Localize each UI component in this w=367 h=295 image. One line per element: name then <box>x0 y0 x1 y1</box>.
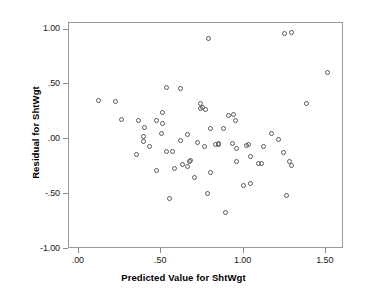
data-point <box>119 117 124 122</box>
data-point <box>289 30 294 35</box>
data-point <box>234 159 239 164</box>
x-tick-label: .00 <box>53 256 103 265</box>
x-axis-title: Predicted Value for ShtWgt <box>0 272 367 283</box>
data-point <box>241 183 246 188</box>
data-point <box>113 99 118 104</box>
data-point <box>276 137 281 142</box>
data-point <box>172 166 177 171</box>
data-point <box>192 175 197 180</box>
data-point <box>246 142 251 147</box>
data-point <box>178 86 183 91</box>
data-point <box>281 150 286 155</box>
data-point <box>147 144 152 149</box>
data-point <box>170 149 175 154</box>
data-point <box>231 112 236 117</box>
x-tick-mark <box>243 248 244 253</box>
data-point <box>160 110 165 115</box>
data-point <box>221 126 226 131</box>
data-point <box>223 210 228 215</box>
data-point <box>167 196 172 201</box>
scatter-plot-figure: 1.00.50.00-.50-1.00 .00.501.001.50 Resid… <box>0 0 367 295</box>
data-point <box>282 31 287 36</box>
data-point <box>259 161 264 166</box>
data-point <box>234 146 239 151</box>
data-point <box>233 118 238 123</box>
data-point <box>141 134 146 139</box>
data-point <box>178 138 183 143</box>
data-point <box>154 118 159 123</box>
x-tick-mark <box>78 248 79 253</box>
data-point <box>269 131 274 136</box>
plot-area <box>68 22 343 248</box>
data-point <box>206 36 211 41</box>
x-tick-label: 1.50 <box>300 256 350 265</box>
data-points-layer <box>69 23 342 247</box>
data-point <box>325 70 330 75</box>
data-point <box>195 140 200 145</box>
y-tick-mark <box>63 248 68 249</box>
x-tick-mark <box>325 248 326 253</box>
data-point <box>208 126 213 131</box>
data-point <box>202 144 207 149</box>
data-point <box>248 181 253 186</box>
data-point <box>216 142 221 147</box>
data-point <box>205 191 210 196</box>
data-point <box>188 158 193 163</box>
data-point <box>164 149 169 154</box>
data-point <box>96 98 101 103</box>
x-tick-label: 1.00 <box>218 256 268 265</box>
data-point <box>230 141 235 146</box>
x-tick-mark <box>160 248 161 253</box>
data-point <box>208 170 213 175</box>
data-point <box>154 168 159 173</box>
data-point <box>248 154 253 159</box>
data-point <box>141 139 146 144</box>
data-point <box>136 118 141 123</box>
data-point <box>304 101 309 106</box>
data-point <box>142 125 147 130</box>
x-tick-label: .50 <box>135 256 185 265</box>
data-point <box>185 164 190 169</box>
y-axis-title: Residual for ShtWgt <box>30 20 41 246</box>
data-point <box>160 121 165 126</box>
data-point <box>164 85 169 90</box>
data-point <box>185 132 190 137</box>
data-point <box>261 144 266 149</box>
data-point <box>203 107 208 112</box>
data-point <box>289 163 294 168</box>
data-point <box>159 131 164 136</box>
data-point <box>134 152 139 157</box>
data-point <box>284 193 289 198</box>
